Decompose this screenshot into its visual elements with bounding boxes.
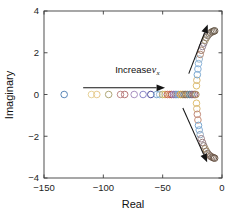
figure-root: −150−100−500 −4−2024 Increase v x Real I… <box>0 0 246 221</box>
y-tick-label: −2 <box>28 131 39 142</box>
increase-label-text: Increase <box>115 64 151 75</box>
x-tick-label: −50 <box>155 182 171 193</box>
y-tick-label: 4 <box>34 5 39 16</box>
eigenvalue-scatter-plot: −150−100−500 −4−2024 Increase v x Real I… <box>0 0 246 221</box>
x-tick-label: −150 <box>33 182 54 193</box>
x-tick-label: 0 <box>219 182 224 193</box>
y-tick-label: −4 <box>28 172 39 183</box>
y-axis-label: Imaginary <box>3 70 15 119</box>
plot-background <box>44 11 222 178</box>
y-tick-label: 2 <box>34 47 39 58</box>
y-tick-label: 0 <box>34 89 39 100</box>
x-tick-label: −100 <box>93 182 114 193</box>
x-axis-label: Real <box>122 198 145 210</box>
